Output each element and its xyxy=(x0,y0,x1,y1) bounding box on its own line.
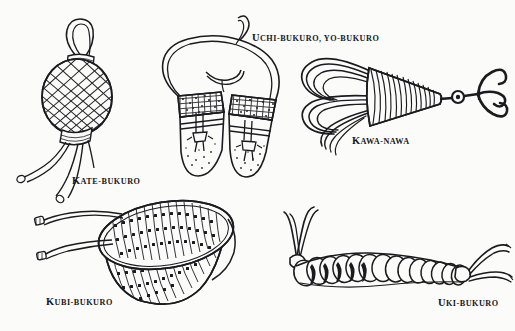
label-uchi-bukuro: UCHI-BUKURO, YO-BUKURO xyxy=(252,27,379,45)
label-kate-bukuro-rest: ATE-BUKURO xyxy=(81,177,141,186)
label-kawa-nawa-lead: K xyxy=(352,135,361,146)
label-uki-bukuro: UKI-BUKURO xyxy=(438,292,499,310)
label-uki-bukuro-lead: U xyxy=(438,297,446,308)
label-kate-bukuro: KATE-BUKURO xyxy=(72,170,140,188)
figure-uki-bukuro xyxy=(284,207,513,289)
plate-artwork xyxy=(0,0,515,331)
label-kate-bukuro-lead: K xyxy=(72,175,81,186)
label-uchi-bukuro-rest: CHI-BUKURO, YO-BUKURO xyxy=(260,34,379,43)
figure-kubi-bukuro xyxy=(34,192,238,305)
label-kawa-nawa: KAWA-NAWA xyxy=(352,130,410,148)
illustration-plate: KATE-BUKURO UCHI-BUKURO, YO-BUKURO KAWA-… xyxy=(0,0,515,331)
label-uki-bukuro-rest: KI-BUKURO xyxy=(446,299,499,308)
label-uchi-bukuro-lead: U xyxy=(252,32,260,43)
label-kubi-bukuro: KUBI-BUKURO xyxy=(46,291,113,309)
label-kubi-bukuro-lead: K xyxy=(46,296,55,307)
label-kubi-bukuro-rest: UBI-BUKURO xyxy=(55,298,113,307)
label-kawa-nawa-rest: AWA-NAWA xyxy=(361,137,410,146)
